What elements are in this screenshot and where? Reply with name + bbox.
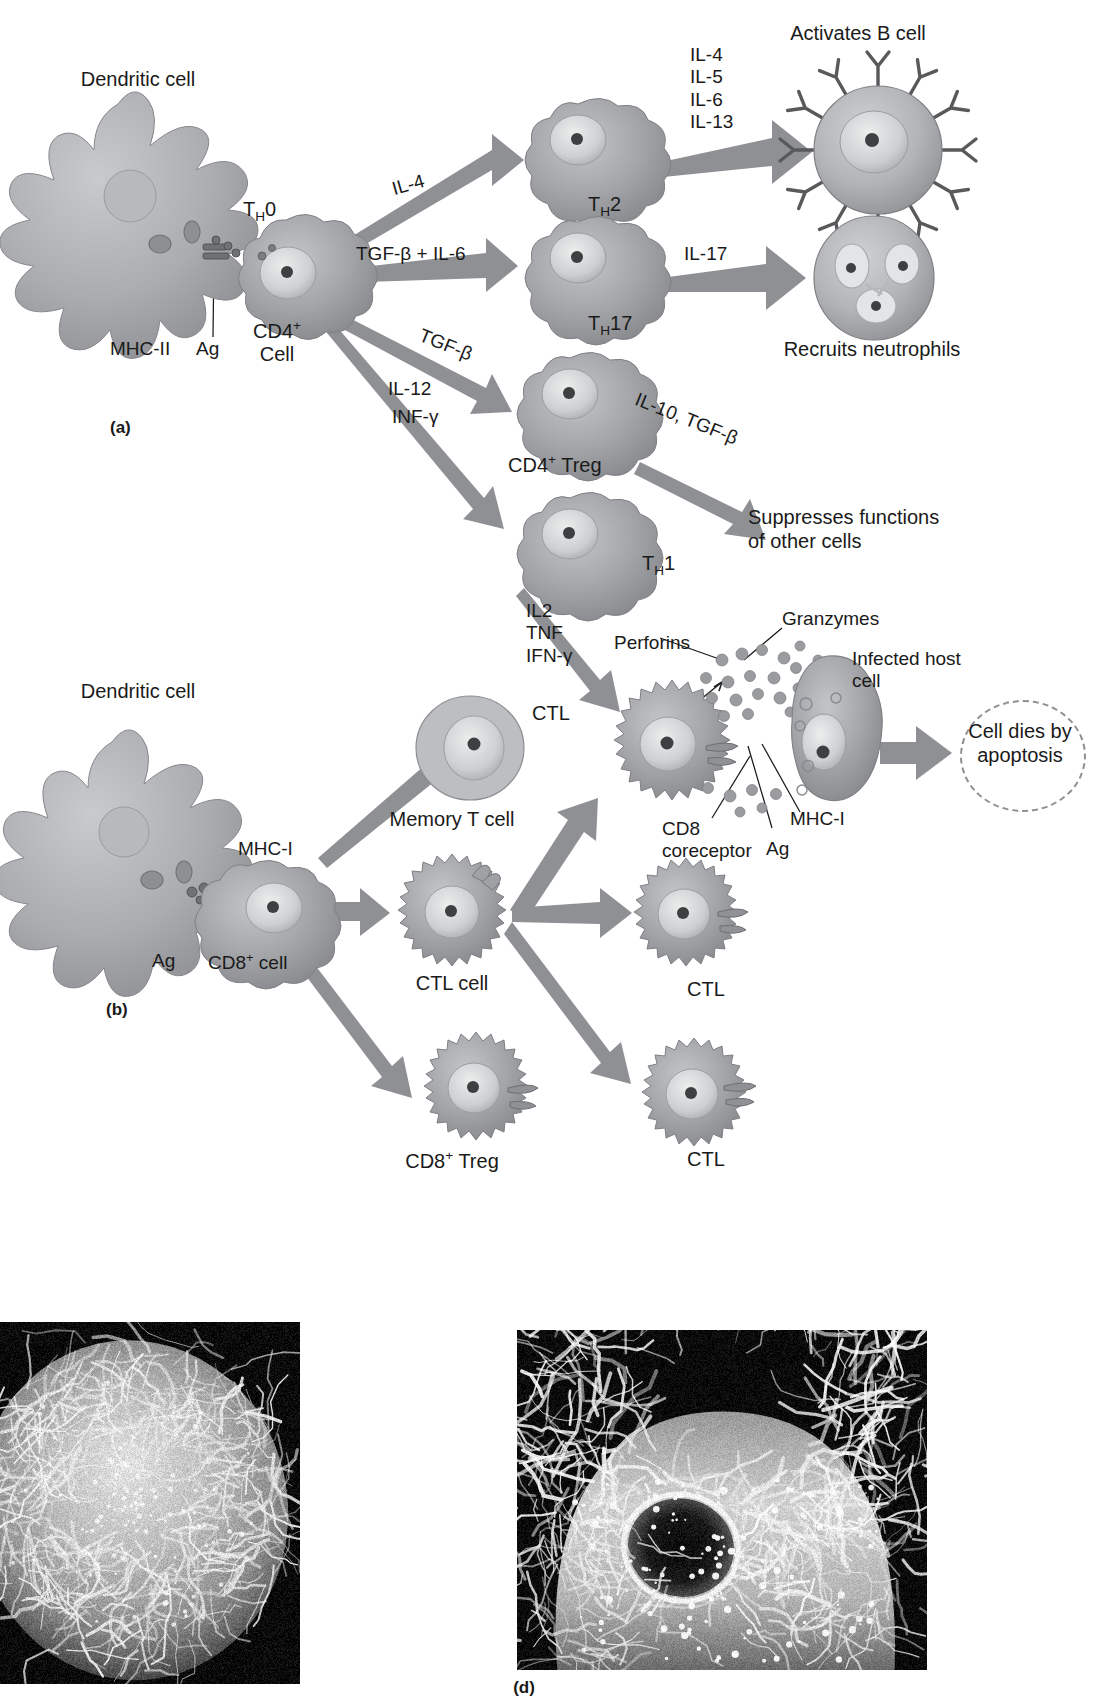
label-th17: TH17 [588,312,632,339]
label-mhc-i-left: MHC-I [238,838,293,860]
label-arrow-il4: IL-4 [390,170,428,201]
label-cd8-coreceptor: CD8 coreceptor [662,818,752,863]
ctl-cell-center [398,854,506,966]
tcr-cd8-spikes [706,743,738,765]
label-il2-tnf-ifn: IL2TNFIFN-γ [526,600,572,667]
ctl-effector-cell [614,641,823,817]
label-granzymes: Granzymes [782,608,879,630]
dendritic-cell-a [0,92,258,359]
label-cell-dies-apoptosis: Cell dies by apoptosis [968,720,1071,767]
micrograph-left [0,1322,300,1684]
label-ag-b-right: Ag [766,838,789,860]
label-mhc-i-right: MHC-I [790,808,845,830]
b-cell [780,52,976,248]
label-il10-tgfb: IL-10, TGF-β [632,388,741,450]
label-infected-host-cell: Infected host cell [852,648,961,693]
label-ag-a: Ag [196,338,219,360]
neutrophil-cell [814,216,934,340]
cd8-treg-cell [424,1032,538,1140]
suppress-line-1: Suppresses functions [748,506,939,528]
label-cd4-cell: CD4+Cell [253,318,301,367]
label-arrow-inf-gamma: INF-γ [392,406,438,428]
label-cytokines-b-cell: IL-4IL-5IL-6IL-13 [690,44,733,134]
apoptosis-line-1: Cell dies by [968,720,1071,742]
label-ctl-effector: CTL [532,702,570,726]
label-dendritic-cell-b: Dendritic cell [81,680,195,704]
label-il17: IL-17 [684,243,727,265]
intracellular-vacuoles [795,693,841,795]
panel-label-d: (d) [513,1678,535,1698]
label-suppresses-functions: Suppresses functions of other cells [748,506,939,553]
label-arrow-il12: IL-12 [388,378,431,400]
label-perforins: Perforins [614,632,690,654]
label-cd8-treg: CD8+ Treg [405,1148,499,1173]
label-ctl-cell: CTL cell [416,972,489,996]
label-th0: TH0 [243,198,276,225]
label-ag-b-left: Ag [152,950,175,972]
micrograph-right [517,1330,927,1670]
panel-label-b: (b) [106,1000,128,1020]
label-ctl-bottom-right: CTL [687,1148,725,1172]
cd8-coreceptor-line-1: CD8 [662,818,700,839]
memory-t-cell [416,696,524,800]
label-cd8-cell: CD8+ cell [208,950,287,975]
label-arrow-tgfb: TGF-β [416,324,476,365]
label-dendritic-cell-a: Dendritic cell [81,68,195,92]
perforin-granzyme-granules [701,641,824,817]
label-activates-b-cell: Activates B cell [790,22,926,46]
tcr-spikes [472,865,500,890]
label-memory-t-cell: Memory T cell [390,808,515,832]
figure-canvas: Dendritic cell TH0 CD4+Cell MHC-II Ag (a… [0,0,1099,1705]
suppress-line-2: of other cells [748,530,861,552]
infected-line-2: cell [852,670,881,691]
label-cd4-treg: CD4+ Treg [508,452,602,477]
label-recruits-neutrophils: Recruits neutrophils [784,338,961,362]
panel-label-a: (a) [110,418,131,438]
label-th1: TH1 [642,552,675,579]
label-arrow-tgfb-il6: TGF-β + IL-6 [356,243,466,265]
b-cell-receptors [780,52,976,248]
infected-line-1: Infected host [852,648,961,669]
apoptosis-line-2: apoptosis [977,744,1063,766]
granule-flow-arrows [700,680,866,700]
label-ctl-top-right: CTL [687,978,725,1002]
ctl-cell-bottom-right [642,1038,756,1146]
cd8-coreceptor-line-2: coreceptor [662,840,752,861]
label-th2: TH2 [588,193,621,220]
label-mhc-ii: MHC-II [110,338,170,360]
ctl-cell-top-right [634,858,748,966]
